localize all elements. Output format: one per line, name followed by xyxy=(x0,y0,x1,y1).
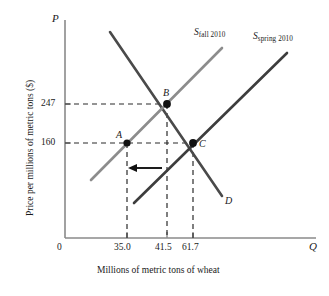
supply-fall-2010-label: Sfall 2010 xyxy=(194,28,225,38)
demand-curve-label: D xyxy=(225,196,232,206)
x-tick-label-61-7: 61.7 xyxy=(182,243,199,253)
y-tick-label-247: 247 xyxy=(41,99,55,109)
supply-fall-2010-label-sub: fall 2010 xyxy=(199,31,226,39)
point-marker-c xyxy=(189,139,197,147)
supply-demand-figure: P Q 0 247 160 35.0 41.5 61.7 A B C Sfall… xyxy=(0,0,329,296)
point-label-c: C xyxy=(199,139,206,149)
supply-spring-2010-label-sub: spring 2010 xyxy=(258,35,293,43)
supply-fall-2010-curve xyxy=(91,48,222,180)
x-axis-symbol: Q xyxy=(309,241,317,252)
y-tick-label-160: 160 xyxy=(41,138,55,148)
point-marker-a xyxy=(123,139,130,146)
point-label-b: B xyxy=(163,88,169,98)
leftward-shift-arrow xyxy=(128,164,162,172)
point-marker-b xyxy=(163,100,171,108)
x-tick-label-35: 35.0 xyxy=(114,243,131,253)
x-axis-title: Millions of metric tons of wheat xyxy=(97,266,220,276)
point-label-a: A xyxy=(116,130,122,140)
x-tick-label-41-5: 41.5 xyxy=(155,243,172,253)
supply-spring-2010-label: Sspring 2010 xyxy=(253,32,293,42)
origin-label: 0 xyxy=(57,243,62,253)
y-axis-title: Price per millions of metric tons ($) xyxy=(26,80,36,216)
y-axis-symbol: P xyxy=(52,13,59,24)
